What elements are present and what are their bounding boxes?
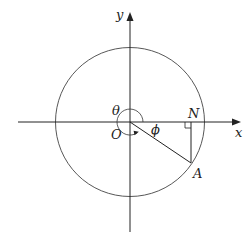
theta-arc-arrow-icon (134, 131, 139, 135)
phi-label: ϕ (151, 122, 160, 137)
y-axis-arrow-icon (127, 12, 134, 21)
y-axis-label: y (115, 7, 124, 22)
theta-label: θ (112, 103, 120, 118)
point-a-label: A (192, 166, 202, 181)
diagram-canvas: y x θ O ϕ N A (0, 0, 252, 236)
right-angle-marker (185, 122, 191, 128)
x-axis-label: x (235, 125, 243, 140)
radius-oa (130, 122, 191, 163)
origin-label: O (111, 127, 122, 142)
point-n-label: N (187, 106, 200, 121)
